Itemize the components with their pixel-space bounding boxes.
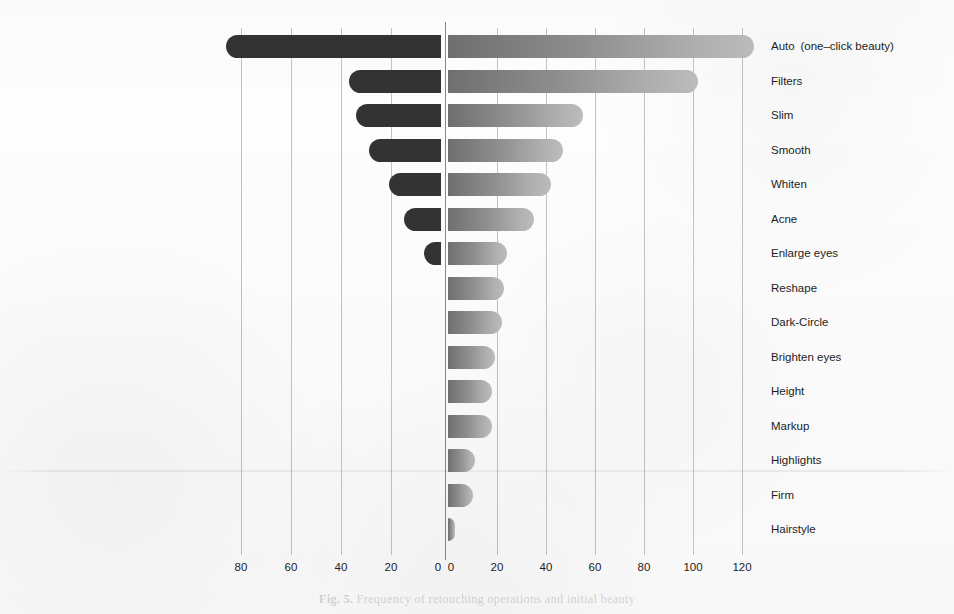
category-label-right: Firm [771, 484, 794, 507]
category-label-right: Brighten eyes [771, 346, 841, 369]
bar-right [448, 449, 475, 472]
bar-row-right: Highlights [0, 444, 954, 479]
bar-right [448, 380, 492, 403]
bar-row-right: Enlarge eyes [0, 237, 954, 272]
bar-row-right: Smooth [0, 134, 954, 169]
x-tick-label-right-60: 60 [575, 561, 615, 573]
x-tick-label-left-20: 20 [371, 561, 411, 573]
bar-row-right: Slim [0, 99, 954, 134]
bar-right [448, 35, 754, 58]
bar-row-right: Dark-Circle [0, 306, 954, 341]
diverging-bar-chart: Auto (one–click beauty)WhitenManually ad… [0, 0, 954, 614]
bar-row-right: Reshape [0, 272, 954, 307]
figure-canvas: Auto (one–click beauty)WhitenManually ad… [0, 0, 954, 614]
category-label-right: Smooth [771, 139, 811, 162]
category-label-right: Auto (one–click beauty) [771, 35, 894, 58]
x-tick-label-left-40: 40 [321, 561, 361, 573]
x-tick-label-right-120: 120 [722, 561, 762, 573]
bar-row-right: Firm [0, 479, 954, 514]
category-label-right: Markup [771, 415, 809, 438]
x-tick-label-left-80: 80 [221, 561, 261, 573]
x-tick-label-right-20: 20 [477, 561, 517, 573]
category-label-right: Reshape [771, 277, 817, 300]
category-label-right: Enlarge eyes [771, 242, 838, 265]
x-tick-label-right-0: 0 [431, 561, 471, 573]
category-label-right: Dark-Circle [771, 311, 829, 334]
bar-row-right: Hairstyle [0, 513, 954, 548]
bar-right [448, 104, 583, 127]
category-label-right: Acne [771, 208, 797, 231]
bar-right [448, 208, 534, 231]
bar-right [448, 70, 698, 93]
x-tick-label-left-60: 60 [271, 561, 311, 573]
bar-row-right: Filters [0, 65, 954, 100]
bar-right [448, 139, 563, 162]
bar-right [448, 415, 492, 438]
category-label-right: Whiten [771, 173, 807, 196]
x-tick-label-right-100: 100 [673, 561, 713, 573]
category-label-right: Highlights [771, 449, 822, 472]
bar-row-right: Whiten [0, 168, 954, 203]
bar-row-right: Acne [0, 203, 954, 238]
bar-right [448, 277, 504, 300]
x-tick-label-right-80: 80 [624, 561, 664, 573]
bar-right [448, 173, 551, 196]
category-label-right: Filters [771, 70, 802, 93]
bar-right [448, 346, 495, 369]
bar-right [448, 484, 473, 507]
figure-caption: Fig. 5. Frequency of retouching operatio… [0, 592, 954, 607]
bar-right [448, 518, 455, 541]
x-tick-label-right-40: 40 [526, 561, 566, 573]
caption-label: Fig. 5. [319, 592, 353, 606]
caption-text: Frequency of retouching operations and i… [357, 592, 636, 606]
bar-right [448, 311, 502, 334]
category-label-right: Height [771, 380, 804, 403]
bar-row-right: Auto (one–click beauty) [0, 30, 954, 65]
category-label-right: Hairstyle [771, 518, 816, 541]
bar-row-right: Brighten eyes [0, 341, 954, 376]
bar-row-right: Height [0, 375, 954, 410]
bar-right [448, 242, 507, 265]
category-label-right: Slim [771, 104, 793, 127]
bar-row-right: Markup [0, 410, 954, 445]
